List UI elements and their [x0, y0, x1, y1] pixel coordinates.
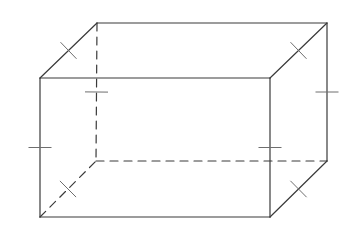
congruence-tick-marks	[29, 42, 339, 197]
prism-edges	[40, 23, 327, 217]
rectangular-prism-diagram	[0, 0, 354, 231]
